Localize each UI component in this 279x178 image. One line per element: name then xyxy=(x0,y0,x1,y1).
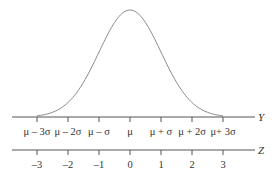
tick-label: –1 xyxy=(93,159,105,170)
tick-label: μ + 2σ xyxy=(178,126,206,137)
diagram-svg: μ – 3σμ – 2σμ – σμμ + σμ + 2σμ+ 3σ Y –3–… xyxy=(0,0,279,178)
z-axis-ticks: –3–2–10123 xyxy=(31,150,226,170)
bell-curve xyxy=(37,10,223,116)
tick-label: μ xyxy=(127,126,133,137)
tick-label: μ – σ xyxy=(88,126,110,137)
tick-label: –2 xyxy=(62,159,74,170)
y-axis-ticks: μ – 3σμ – 2σμ – σμμ + σμ + 2σμ+ 3σ xyxy=(23,117,235,137)
normal-distribution-diagram: μ – 3σμ – 2σμ – σμμ + σμ + 2σμ+ 3σ Y –3–… xyxy=(0,0,279,178)
tick-label: μ – 2σ xyxy=(54,126,81,137)
tick-label: 2 xyxy=(189,159,194,170)
tick-label: –3 xyxy=(31,159,43,170)
y-axis-label: Y xyxy=(258,111,266,123)
tick-label: 1 xyxy=(158,159,163,170)
tick-label: 3 xyxy=(220,159,225,170)
tick-label: μ – 3σ xyxy=(23,126,50,137)
tick-label: 0 xyxy=(127,159,132,170)
tick-label: μ + σ xyxy=(150,126,173,137)
z-axis-label: Z xyxy=(258,144,265,156)
tick-label: μ+ 3σ xyxy=(210,126,235,137)
